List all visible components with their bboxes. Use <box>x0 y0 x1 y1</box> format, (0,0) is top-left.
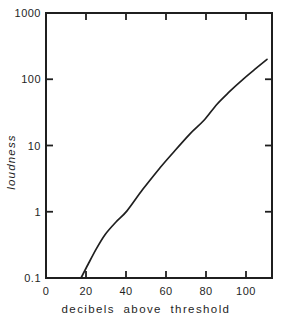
x-axis-title: decibels above threshold <box>62 303 231 315</box>
loudness-chart-figure: 0204060801000.11101001000 decibels above… <box>0 0 284 325</box>
x-tick-label: 80 <box>199 285 212 297</box>
x-tick-label: 60 <box>159 285 172 297</box>
y-tick-label: 0.1 <box>24 272 41 284</box>
y-axis-title: loudness <box>5 134 17 190</box>
x-tick-label: 0 <box>43 285 50 297</box>
x-tick-label: 40 <box>119 285 132 297</box>
x-tick-label: 100 <box>236 285 256 297</box>
axis-ticks <box>46 13 272 278</box>
y-tick-label: 1 <box>34 206 41 218</box>
loudness-curve-line <box>81 59 267 278</box>
plot-border <box>46 13 272 278</box>
y-tick-label: 100 <box>21 73 41 85</box>
x-tick-label: 20 <box>79 285 92 297</box>
axis-tick-labels: 0204060801000.11101001000 <box>15 7 256 297</box>
chart-canvas: 0204060801000.11101001000 decibels above… <box>0 0 284 325</box>
y-tick-label: 10 <box>28 140 41 152</box>
y-tick-label: 1000 <box>15 7 41 19</box>
